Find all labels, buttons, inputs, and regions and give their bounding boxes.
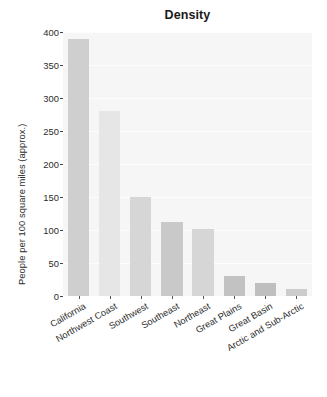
x-tick-mark xyxy=(234,296,235,299)
x-tick-mark xyxy=(79,296,80,299)
y-tick-mark xyxy=(60,65,63,66)
y-tick-mark xyxy=(60,98,63,99)
y-tick-label: 100 xyxy=(19,225,59,236)
bar xyxy=(286,289,307,296)
y-tick-mark xyxy=(60,230,63,231)
bar xyxy=(130,197,151,296)
y-tick-label: 200 xyxy=(19,159,59,170)
chart-title: Density xyxy=(63,8,312,22)
x-tick-mark xyxy=(265,296,266,299)
x-tick-label: California xyxy=(49,301,88,329)
gridline xyxy=(63,32,312,33)
x-tick-mark xyxy=(110,296,111,299)
gridline xyxy=(63,65,312,66)
bar xyxy=(99,111,120,296)
x-tick-label: Arctic and Sub-Arctic xyxy=(225,301,305,353)
bar xyxy=(224,276,245,296)
x-tick-label: Southeast xyxy=(140,301,181,331)
x-tick-mark xyxy=(203,296,204,299)
x-tick-mark xyxy=(141,296,142,299)
y-tick-label: 300 xyxy=(19,93,59,104)
y-axis-label-container: People per 100 square miles (approx.) xyxy=(0,0,22,300)
gridline xyxy=(63,98,312,99)
bar xyxy=(68,39,89,296)
y-tick-label: 150 xyxy=(19,192,59,203)
x-tick-label: Northwest Coast xyxy=(54,301,118,344)
y-tick-mark xyxy=(60,32,63,33)
y-tick-mark xyxy=(60,164,63,165)
y-tick-mark xyxy=(60,131,63,132)
chart-figure: Density People per 100 square miles (app… xyxy=(0,0,327,397)
y-tick-label: 0 xyxy=(19,291,59,302)
y-tick-mark xyxy=(60,263,63,264)
x-tick-label: Great Plains xyxy=(194,301,243,335)
bar xyxy=(255,283,276,296)
x-tick-label: Northeast xyxy=(172,301,212,330)
y-tick-label: 50 xyxy=(19,258,59,269)
x-tick-mark xyxy=(172,296,173,299)
bar xyxy=(161,222,182,296)
x-tick-mark xyxy=(296,296,297,299)
x-tick-label: Southwest xyxy=(107,301,150,331)
y-tick-label: 350 xyxy=(19,60,59,71)
y-tick-mark xyxy=(60,197,63,198)
x-tick-label: Great Basin xyxy=(227,301,274,334)
y-tick-label: 400 xyxy=(19,27,59,38)
y-tick-mark xyxy=(60,296,63,297)
plot-area xyxy=(63,32,312,296)
bar xyxy=(192,229,213,296)
y-tick-label: 250 xyxy=(19,126,59,137)
